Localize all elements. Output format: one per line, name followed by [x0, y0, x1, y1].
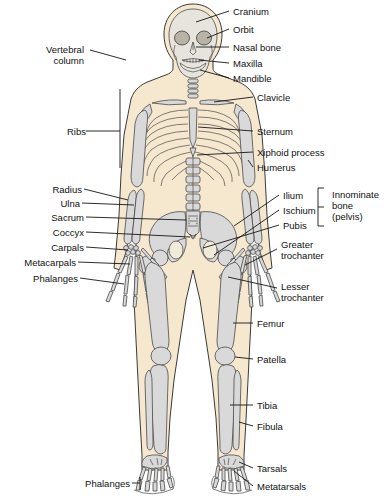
label-greater-trochanter: Greater trochanter [281, 239, 324, 261]
obturator-foramen-left [169, 241, 183, 259]
label-tibia: Tibia [257, 400, 277, 411]
label-mandible: Mandible [233, 73, 272, 84]
label-coccyx: Coccyx [53, 227, 84, 238]
label-nasal-bone: Nasal bone [233, 42, 281, 53]
label-fibula: Fibula [257, 421, 283, 432]
bracket-ribs [86, 89, 120, 168]
label-ischium: Ischium [283, 205, 316, 216]
label-humerus: Humerus [257, 162, 296, 173]
bracket-innominate [318, 188, 324, 226]
label-sacrum: Sacrum [51, 212, 84, 223]
orbit-right-shape [197, 31, 212, 45]
label-pubis: Pubis [283, 220, 307, 231]
label-carpals: Carpals [51, 242, 84, 253]
skeleton-diagram-figure: .body{fill:#f6e7cf;stroke:#3a3a3a;stroke… [0, 0, 387, 501]
tarsals-right-shape [219, 455, 244, 469]
label-patella: Patella [257, 354, 286, 365]
tarsals-left-shape [142, 455, 167, 469]
metatarsals-left-shape [139, 466, 171, 481]
label-tarsals: Tarsals [257, 463, 287, 474]
patella-right-shape [215, 347, 235, 365]
orbit-left-shape [175, 31, 190, 45]
label-femur: Femur [257, 318, 284, 329]
patella-left-shape [151, 347, 171, 365]
metatarsals-right-shape [215, 466, 247, 481]
label-ribs: Ribs [67, 126, 86, 137]
label-lesser-trochanter: Lesser trochanter [281, 281, 324, 303]
label-metatarsals: Metatarsals [257, 481, 306, 492]
label-phalanges-foot: Phalanges [85, 478, 130, 489]
label-sternum: Sternum [257, 126, 293, 137]
label-metacarpals: Metacarpals [24, 257, 76, 268]
leader-vertebral-column [90, 50, 126, 60]
label-maxilla: Maxilla [233, 58, 263, 69]
label-cranium: Cranium [233, 6, 269, 17]
obturator-foramen-right [203, 241, 217, 259]
label-phalanges-hand: Phalanges [33, 273, 78, 284]
label-clavicle: Clavicle [257, 92, 290, 103]
label-innominate-bone: Innominate bone (pelvis) [332, 189, 379, 222]
label-ilium: Ilium [283, 190, 303, 201]
label-radius: Radius [52, 184, 82, 195]
carpals-right-shape [246, 245, 263, 256]
label-xiphoid-process: Xiphoid process [257, 147, 325, 158]
label-orbit: Orbit [233, 24, 254, 35]
label-vertebral-column: Vertebral column [46, 44, 84, 66]
label-ulna: Ulna [60, 198, 80, 209]
